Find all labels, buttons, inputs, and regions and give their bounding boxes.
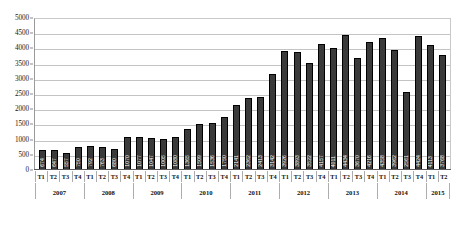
bar-slot: 1536 [206, 19, 218, 170]
bar[interactable]: 1005 [160, 139, 167, 170]
bar-value-label: 2413 [257, 155, 264, 167]
bar-slot: 3670 [352, 19, 364, 170]
bar-value-label: 4011 [330, 156, 337, 167]
bar-slot: 3768 [437, 19, 449, 170]
bar[interactable]: 4011 [330, 48, 337, 170]
bar[interactable]: 1509 [196, 124, 203, 170]
quarter-label: T2 [389, 170, 401, 183]
bar-value-label: 4113 [427, 156, 434, 167]
bar[interactable]: 1750 [221, 117, 228, 170]
bar[interactable]: 4113 [427, 45, 434, 170]
bar[interactable]: 3962 [391, 50, 398, 170]
bar-slot: 4358 [376, 19, 388, 170]
year-group-label: 2014 [377, 183, 426, 201]
quarter-label: T4 [72, 170, 84, 183]
quarter-label: T1 [84, 170, 96, 183]
bar-slot: 1509 [194, 19, 206, 170]
bar[interactable]: 4358 [379, 38, 386, 170]
bar[interactable]: 1080 [172, 137, 179, 170]
y-axis-tick-label: 2000 [15, 105, 29, 113]
y-axis-tick-mark [30, 94, 33, 95]
bar[interactable]: 680 [111, 149, 118, 170]
bar-value-label: 1047 [148, 155, 155, 167]
bar-value-label: 4358 [379, 155, 386, 167]
bar[interactable]: 4216 [366, 42, 373, 170]
bar[interactable]: 3893 [294, 52, 301, 170]
quarter-label: T3 [352, 170, 364, 183]
bar-value-label: 1005 [160, 155, 167, 167]
quarter-label: T4 [316, 170, 328, 183]
quarter-label: T3 [401, 170, 413, 183]
bar-slot: 2362 [242, 19, 254, 170]
bar[interactable]: 1536 [209, 123, 216, 170]
quarter-label: T4 [364, 170, 376, 183]
bar-value-label: 674 [39, 158, 46, 167]
y-axis-tick-label: 3500 [15, 60, 29, 68]
bar[interactable]: 3670 [354, 58, 361, 170]
bar-slot: 3522 [303, 19, 315, 170]
bar-slot: 4157 [315, 19, 327, 170]
bar-slot: 2561 [400, 19, 412, 170]
y-axis-tick-label: 3000 [15, 75, 29, 83]
quarter-label: T1 [133, 170, 145, 183]
quarter-label: T4 [413, 170, 425, 183]
quarter-label: T3 [59, 170, 71, 183]
bar[interactable]: 4157 [318, 44, 325, 170]
bar[interactable]: 1365 [184, 129, 191, 170]
bar-chart: 5000450040003500300025002000150010005000… [0, 0, 456, 227]
bar-value-label: 3768 [439, 155, 446, 167]
bar-slot: 3962 [388, 19, 400, 170]
bar[interactable]: 4434 [342, 35, 349, 170]
bar-slot: 3893 [291, 19, 303, 170]
bar-value-label: 4157 [318, 155, 325, 167]
quarter-label: T1 [35, 170, 47, 183]
y-axis-tick-label: 1000 [15, 136, 29, 144]
year-group-label: 2012 [279, 183, 328, 201]
bar[interactable]: 1077 [136, 137, 143, 170]
bar[interactable]: 3522 [306, 63, 313, 170]
bar[interactable]: 763 [99, 147, 106, 170]
year-group-label: 2009 [133, 183, 182, 201]
y-axis-tick-mark [30, 18, 33, 19]
bar-slot: 1070 [121, 19, 133, 170]
bar-value-label: 3670 [354, 155, 361, 167]
y-axis-tick-mark [30, 154, 33, 155]
bar-value-label: 1070 [124, 155, 131, 167]
bar-value-label: 4424 [415, 155, 422, 167]
y-axis-tick-mark [30, 124, 33, 125]
bar-value-label: 3522 [306, 155, 313, 167]
quarter-label: T4 [218, 170, 230, 183]
quarter-label: T2 [340, 170, 352, 183]
bar-slot: 1005 [157, 19, 169, 170]
bar[interactable]: 2413 [257, 97, 264, 170]
bar[interactable]: 1047 [148, 138, 155, 170]
bar[interactable]: 1070 [124, 137, 131, 170]
quarter-label: T2 [194, 170, 206, 183]
quarter-label: T3 [255, 170, 267, 183]
bar[interactable]: 750 [75, 147, 82, 170]
quarter-label: T4 [120, 170, 132, 183]
bar[interactable]: 557 [63, 153, 70, 170]
y-axis-tick-label: 4000 [15, 44, 29, 52]
bar[interactable]: 792 [87, 146, 94, 170]
bar[interactable]: 3142 [269, 74, 276, 170]
y-axis-tick-label: 4500 [15, 29, 29, 37]
bar-slot: 750 [72, 19, 84, 170]
quarter-label: T2 [291, 170, 303, 183]
bar[interactable]: 3768 [439, 55, 446, 170]
bar-slot: 2141 [230, 19, 242, 170]
bar-value-label: 750 [75, 158, 82, 167]
bar[interactable]: 4424 [415, 36, 422, 170]
bar[interactable]: 647 [51, 150, 58, 170]
quarter-label: T3 [108, 170, 120, 183]
bar[interactable]: 2141 [233, 105, 240, 170]
year-group-label: 2008 [84, 183, 133, 201]
bar[interactable]: 674 [39, 150, 46, 170]
bar-value-label: 2141 [233, 155, 240, 167]
bar-value-label: 1509 [196, 155, 203, 167]
year-group-labels: 200720082009201020112012201320142015 [34, 183, 451, 201]
bar[interactable]: 3926 [281, 51, 288, 170]
y-axis-tick-mark [30, 48, 33, 49]
bar[interactable]: 2561 [403, 92, 410, 170]
bar[interactable]: 2362 [245, 98, 252, 170]
